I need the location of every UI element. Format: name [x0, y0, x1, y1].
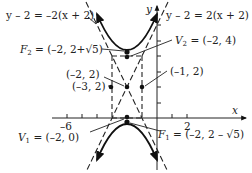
point-right — [140, 85, 145, 90]
hyperbola-lower-branch — [97, 124, 157, 160]
point-center — [125, 85, 130, 90]
x-axis-label: x — [232, 104, 238, 116]
hyperbola-diagram: x y –6 2 y – 2 = –2(x + 2) y — [0, 0, 252, 173]
point-F1 — [124, 119, 129, 124]
label-V2: V2 = (–2, 4) — [175, 34, 236, 48]
point-left — [109, 85, 114, 90]
x-axis — [52, 114, 246, 118]
label-F1: F1 = (–2, 2 – √5) — [157, 128, 244, 142]
y-axis — [157, 6, 161, 170]
asymptote-label-positive: y – 2 = 2(x + 2) — [165, 9, 249, 21]
point-F2 — [124, 49, 129, 54]
label-F2: F2 = (–2, 2+√5) — [19, 43, 103, 57]
y-axis-label: y — [145, 3, 153, 15]
label-left: (–3, 2) — [72, 80, 105, 92]
asymptote-label-negative: y – 2 = –2(x + 2) — [5, 9, 94, 21]
point-V1 — [125, 115, 130, 120]
label-V1: V1 = (–2, 0) — [18, 131, 79, 145]
label-center: (–2, 2) — [66, 68, 99, 80]
point-V2 — [125, 55, 130, 60]
label-right: (–1, 2) — [170, 65, 203, 77]
